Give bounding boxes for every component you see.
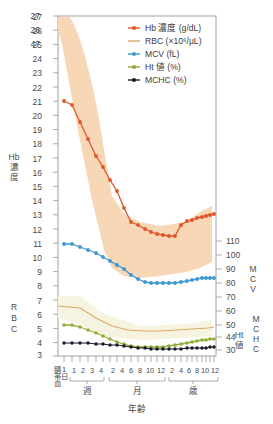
svg-text:24: 24 [33, 54, 43, 64]
legend-label-rbc: RBC (×10⁶/μL) [145, 36, 202, 46]
legend-label-mcv: MCV (fL) [145, 49, 180, 59]
svg-text:3: 3 [37, 350, 42, 360]
svg-text:27: 27 [33, 12, 43, 22]
svg-text:14: 14 [33, 196, 43, 206]
x-axis-tickmarks [64, 356, 214, 362]
svg-text:6: 6 [187, 366, 191, 375]
x-axis-numbers: 1234 2468 1012 2468 1012 [72, 366, 219, 375]
svg-text:2: 2 [111, 366, 115, 375]
svg-text:50: 50 [226, 320, 236, 330]
svg-text:3: 3 [90, 366, 94, 375]
svg-text:B: B [11, 313, 17, 323]
chart-figure: 272647 27 26 25 24 23 22 21 20 19 18 17 … [0, 0, 273, 424]
svg-text:80: 80 [226, 278, 236, 288]
svg-text:M: M [249, 264, 256, 274]
svg-text:C: C [253, 344, 259, 354]
x-label-oneday: 1 日 [61, 365, 68, 381]
svg-text:12: 12 [211, 366, 219, 375]
svg-text:V: V [250, 284, 256, 294]
svg-text:1: 1 [72, 366, 76, 375]
svg-text:日: 日 [61, 372, 68, 381]
svg-text:21: 21 [33, 97, 43, 107]
x-axis-title: 年齢 [128, 403, 146, 414]
right-axis-caption-mcv: M C V [249, 264, 256, 294]
svg-text:4: 4 [120, 366, 124, 375]
left-axis-tickmarks [53, 16, 58, 356]
svg-text:12: 12 [157, 366, 165, 375]
svg-text:4: 4 [99, 366, 103, 375]
svg-text:H: H [253, 334, 259, 344]
legend-label-hb: Hb 濃度 (g/dL) [145, 22, 201, 33]
svg-text:22: 22 [33, 83, 43, 93]
svg-text:90: 90 [226, 264, 236, 274]
right-axis-caption-ht: Ht 値 [235, 330, 244, 350]
svg-text:10: 10 [146, 366, 154, 375]
svg-text:8: 8 [138, 366, 142, 375]
svg-text:25: 25 [33, 40, 43, 50]
svg-text:15: 15 [33, 182, 43, 192]
chart-svg: 272647 27 26 25 24 23 22 21 20 19 18 17 … [0, 0, 273, 424]
svg-text:8: 8 [195, 366, 199, 375]
svg-text:度: 度 [10, 172, 19, 182]
legend-label-ht: Ht 値 (%) [145, 61, 181, 72]
svg-text:17: 17 [33, 154, 43, 164]
svg-text:100: 100 [226, 250, 240, 260]
svg-text:Hb: Hb [9, 152, 20, 162]
svg-text:23: 23 [33, 68, 43, 78]
svg-text:10: 10 [201, 366, 209, 375]
svg-text:12: 12 [33, 225, 43, 235]
x-group-labels: 週 月 歳 [83, 385, 198, 396]
svg-text:16: 16 [33, 168, 43, 178]
svg-text:70: 70 [226, 292, 236, 302]
svg-text:C: C [253, 324, 259, 334]
svg-text:13: 13 [33, 210, 43, 220]
svg-text:7: 7 [37, 296, 42, 306]
svg-text:4: 4 [37, 338, 42, 348]
svg-text:6: 6 [37, 310, 42, 320]
right-axis-caption-mchc: M C H C [252, 314, 259, 354]
svg-text:110: 110 [226, 236, 240, 246]
svg-text:C: C [250, 274, 256, 284]
x-group-label-week: 週 [83, 386, 92, 396]
left-axis-caption-hb: Hb 濃 度 [9, 152, 20, 182]
svg-text:60: 60 [226, 306, 236, 316]
svg-text:8: 8 [37, 281, 42, 291]
left-axis-ticks: 27 26 25 24 23 22 21 20 19 18 17 16 15 1… [33, 12, 43, 360]
svg-text:値: 値 [235, 340, 244, 350]
svg-text:R: R [11, 302, 17, 312]
svg-text:2: 2 [81, 366, 85, 375]
svg-text:20: 20 [33, 111, 43, 121]
right-axis-tickmarks [216, 241, 222, 350]
svg-text:4: 4 [179, 366, 183, 375]
svg-text:10: 10 [33, 253, 43, 263]
svg-text:26: 26 [33, 26, 43, 36]
svg-text:Ht: Ht [235, 330, 244, 340]
svg-text:6: 6 [129, 366, 133, 375]
svg-text:11: 11 [33, 239, 42, 249]
svg-text:9: 9 [37, 267, 42, 277]
svg-text:19: 19 [33, 125, 43, 135]
svg-text:2: 2 [170, 366, 174, 375]
svg-text:濃: 濃 [10, 162, 19, 172]
svg-text:18: 18 [33, 139, 43, 149]
svg-text:M: M [252, 314, 259, 324]
svg-text:C: C [11, 324, 17, 334]
x-group-label-year: 歳 [189, 385, 198, 396]
x-group-braces [70, 377, 218, 384]
x-group-label-month: 月 [133, 386, 142, 396]
left-axis-caption-rbc: R B C [11, 302, 17, 334]
svg-text:5: 5 [37, 324, 42, 334]
legend-label-mchc: MCHC (%) [145, 75, 187, 85]
